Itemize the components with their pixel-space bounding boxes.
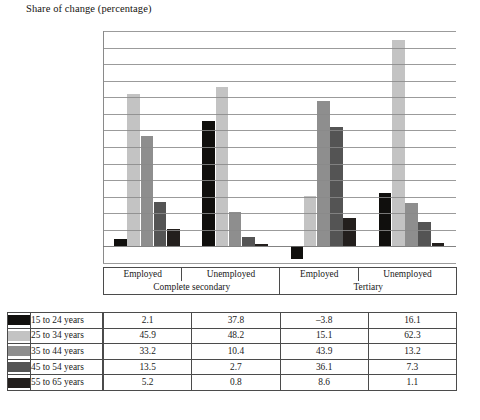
table-group-header: Tertiary	[280, 281, 457, 295]
legend-label: 45 to 54 years	[31, 359, 103, 375]
table-cell-value: 37.8	[192, 313, 280, 329]
legend-color-swatch	[8, 362, 30, 372]
legend-label: 35 to 44 years	[31, 344, 103, 360]
legend-color-swatch	[8, 331, 30, 341]
legend-color-swatch	[8, 378, 30, 388]
table-group-header: Complete secondary	[104, 281, 280, 295]
table-column-header: Employed	[104, 268, 182, 282]
legend-swatch-cell	[8, 359, 31, 375]
gridline-55	[103, 64, 456, 65]
gridline-60	[103, 48, 456, 49]
legend-item: 35 to 44 years	[8, 344, 103, 360]
bar	[114, 239, 127, 246]
table-cell-value: 43.9	[280, 344, 368, 360]
gridline-0	[103, 246, 456, 247]
bar	[202, 121, 215, 246]
gridline-10	[103, 213, 456, 214]
table-cell-value: 8.6	[280, 375, 368, 391]
table-column-header: Unemployed	[358, 268, 456, 282]
bar	[392, 40, 405, 246]
gridline-5	[103, 230, 456, 231]
legend-label: 15 to 24 years	[31, 313, 103, 329]
table-row: 13.52.736.17.3	[104, 359, 457, 375]
table-cell-value: –3.8	[280, 313, 368, 329]
source-note	[4, 410, 304, 419]
bar	[242, 237, 255, 246]
gridline-40	[103, 114, 456, 115]
bar	[154, 202, 167, 247]
chart-legend: 15 to 24 years25 to 34 years35 to 44 yea…	[7, 312, 103, 391]
legend-label: 25 to 34 years	[31, 328, 103, 344]
bar	[304, 196, 317, 246]
table-row: 45.948.215.162.3	[104, 328, 457, 344]
table-cell-value: 0.8	[192, 375, 280, 391]
bar	[216, 87, 229, 247]
table-cell-value: 45.9	[104, 328, 192, 344]
table-cell-value: 2.1	[104, 313, 192, 329]
table-cell-value: 10.4	[192, 344, 280, 360]
bar	[317, 101, 330, 246]
bar	[379, 193, 392, 246]
table-cell-value: 13.5	[104, 359, 192, 375]
table-cell-value: 7.3	[368, 359, 456, 375]
table-row: 5.20.88.61.1	[104, 375, 457, 391]
gridline-35	[103, 130, 456, 131]
table-cell-value: 5.2	[104, 375, 192, 391]
bar	[405, 203, 418, 247]
bar	[127, 94, 140, 246]
legend-item: 45 to 54 years	[8, 359, 103, 375]
legend-swatch-cell	[8, 328, 31, 344]
gridline-25	[103, 164, 456, 165]
bar	[291, 246, 304, 259]
gridline--5	[103, 263, 456, 264]
chart-plot-area	[103, 31, 456, 263]
table-cell-value: 16.1	[368, 313, 456, 329]
table-column-header: Unemployed	[182, 268, 280, 282]
table-row: 2.137.8–3.816.1	[104, 313, 457, 329]
legend-swatch-cell	[8, 344, 31, 360]
table-cell-value: 33.2	[104, 344, 192, 360]
legend-item: 55 to 65 years	[8, 375, 103, 391]
gridline-20	[103, 180, 456, 181]
legend-label: 55 to 65 years	[31, 375, 103, 391]
legend-color-swatch	[8, 315, 30, 325]
bar	[343, 218, 356, 247]
bar	[330, 127, 343, 247]
legend-swatch-cell	[8, 313, 31, 329]
table-cell-value: 2.7	[192, 359, 280, 375]
table-cell-value: 15.1	[280, 328, 368, 344]
table-header-body: EmployedUnemployedEmployedUnemployedComp…	[104, 268, 457, 295]
page-title: Share of change (percentage)	[26, 3, 152, 14]
bar	[167, 229, 180, 246]
legend-body: 15 to 24 years25 to 34 years35 to 44 yea…	[8, 313, 103, 391]
legend-color-swatch	[8, 346, 30, 356]
data-table-header: EmployedUnemployedEmployedUnemployedComp…	[103, 267, 457, 295]
bar	[418, 222, 431, 246]
gridline-15	[103, 197, 456, 198]
legend-item: 25 to 34 years	[8, 328, 103, 344]
values-body: 2.137.8–3.816.145.948.215.162.333.210.44…	[104, 313, 457, 391]
table-cell-value: 13.2	[368, 344, 456, 360]
table-column-header: Employed	[280, 268, 358, 282]
data-table-values: 2.137.8–3.816.145.948.215.162.333.210.44…	[103, 312, 457, 391]
gridline-65	[103, 31, 456, 32]
table-row: 33.210.443.913.2	[104, 344, 457, 360]
legend-item: 15 to 24 years	[8, 313, 103, 329]
gridline-50	[103, 81, 456, 82]
table-cell-value: 1.1	[368, 375, 456, 391]
table-cell-value: 48.2	[192, 328, 280, 344]
gridline-45	[103, 97, 456, 98]
table-cell-value: 62.3	[368, 328, 456, 344]
legend-swatch-cell	[8, 375, 31, 391]
gridline-30	[103, 147, 456, 148]
table-cell-value: 36.1	[280, 359, 368, 375]
